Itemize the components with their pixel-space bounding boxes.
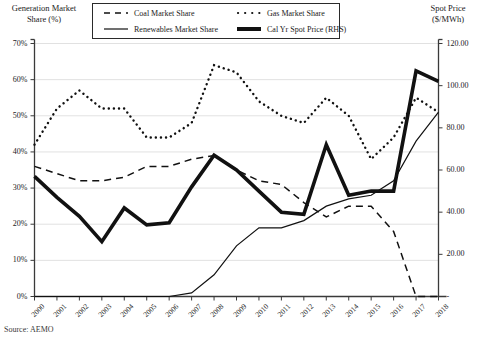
y-tick-label-right: - — [447, 292, 483, 301]
legend: Coal Market Share Gas Market Share Renew… — [92, 3, 340, 39]
y-tick-label-right: 120.00 — [447, 39, 483, 48]
chart-container: Generation Market Share (%) Spot Price (… — [0, 0, 483, 337]
series-line-renewables — [35, 112, 439, 296]
y-tick-label-left: 0% — [0, 292, 28, 301]
y-tick-label-left: 30% — [0, 183, 28, 192]
legend-item-renewables: Renewables Market Share — [103, 24, 218, 34]
dotted-line-swatch — [236, 8, 262, 18]
series-line-spot-price — [35, 71, 439, 242]
legend-item-spot-price: Cal Yr Spot Price (RHS) — [236, 24, 346, 34]
y-tick-label-left: 40% — [0, 147, 28, 156]
left-axis-title: Generation Market Share (%) — [2, 3, 86, 24]
legend-label-renewables: Renewables Market Share — [134, 25, 218, 34]
plot-area — [0, 0, 483, 337]
y-tick-label-right: 100.00 — [447, 81, 483, 90]
y-tick-label-left: 60% — [0, 75, 28, 84]
series-line-coal — [35, 156, 439, 297]
legend-label-coal: Coal Market Share — [134, 9, 194, 18]
dashed-line-swatch — [103, 8, 129, 18]
legend-label-gas: Gas Market Share — [267, 9, 325, 18]
legend-label-spot-price: Cal Yr Spot Price (RHS) — [267, 25, 346, 34]
y-tick-label-right: 60.00 — [447, 165, 483, 174]
solid-thin-line-swatch — [103, 24, 129, 34]
y-tick-label-left: 10% — [0, 255, 28, 264]
y-tick-label-left: 20% — [0, 219, 28, 228]
right-axis-title: Spot Price ($/MWh) — [414, 3, 482, 24]
solid-thick-line-swatch — [236, 24, 262, 34]
y-tick-label-right: 20.00 — [447, 249, 483, 258]
y-tick-label-right: 40.00 — [447, 207, 483, 216]
source-note: Source: AEMO — [4, 325, 54, 334]
y-tick-label-left: 70% — [0, 39, 28, 48]
y-tick-label-right: 80.00 — [447, 123, 483, 132]
y-tick-label-left: 50% — [0, 111, 28, 120]
legend-item-coal: Coal Market Share — [103, 8, 194, 18]
legend-item-gas: Gas Market Share — [236, 8, 325, 18]
